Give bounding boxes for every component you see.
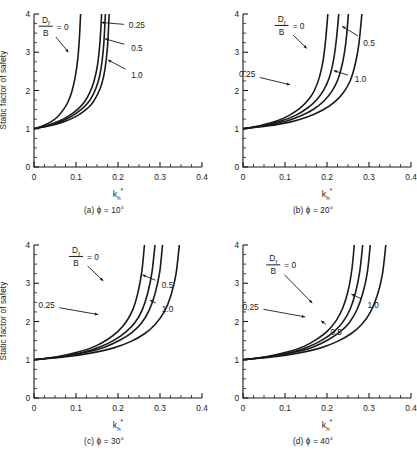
svg-text:0.5: 0.5 [330,327,342,337]
svg-text:0.3: 0.3 [154,403,166,413]
panel-caption-b: (b) ϕ = 20° [209,206,417,215]
svg-text:= 0: = 0 [293,21,305,31]
panel-c: Static factor of safety 0123400.10.20.30… [0,231,208,461]
svg-text:1.0: 1.0 [162,304,174,314]
svg-text:0.25: 0.25 [242,302,259,312]
plot-area-a: 0123400.10.20.30.4kh*DfB= 00.250.51.0 [0,0,208,205]
svg-text:1: 1 [25,124,30,134]
svg-text:0.25: 0.25 [129,20,146,30]
svg-text:Df: Df [42,15,50,27]
svg-text:0: 0 [241,172,246,182]
svg-text:0: 0 [234,393,239,403]
svg-text:0.2: 0.2 [321,403,333,413]
panel-b: 0123400.10.20.30.4kh*DfB= 00.250.51.0 (b… [209,0,417,230]
svg-text:0: 0 [32,172,37,182]
svg-text:0.2: 0.2 [112,172,124,182]
svg-text:1: 1 [25,355,30,365]
svg-text:3: 3 [25,278,30,288]
svg-text:0.5: 0.5 [162,280,174,290]
panel-caption-a: (a) ϕ = 10° [0,206,208,215]
svg-text:= 0: = 0 [87,252,99,262]
svg-text:0.1: 0.1 [70,172,82,182]
svg-text:2: 2 [25,317,30,327]
svg-text:4: 4 [25,240,30,250]
svg-text:0.1: 0.1 [279,172,291,182]
svg-text:0.3: 0.3 [363,403,375,413]
svg-text:3: 3 [25,47,30,57]
svg-text:0: 0 [25,162,30,172]
panel-d: 0123400.10.20.30.4kh*DfB= 00.250.51.0 (d… [209,231,417,461]
svg-text:= 0: = 0 [284,260,296,270]
svg-text:4: 4 [234,9,239,19]
svg-text:Df: Df [72,245,80,257]
svg-text:B: B [279,27,285,37]
panel-caption-d: (d) ϕ = 40° [209,437,417,446]
svg-text:0.1: 0.1 [279,403,291,413]
svg-text:0.2: 0.2 [112,403,124,413]
svg-text:0: 0 [32,403,37,413]
svg-text:0: 0 [241,403,246,413]
svg-text:0.4: 0.4 [405,172,417,182]
svg-text:kh*: kh* [113,187,124,201]
svg-text:0.3: 0.3 [154,172,166,182]
panel-a: Static factor of safety 0123400.10.20.30… [0,0,208,230]
svg-text:0: 0 [234,162,239,172]
svg-text:B: B [43,28,49,38]
svg-text:1: 1 [234,124,239,134]
svg-text:0.4: 0.4 [405,403,417,413]
plot-area-b: 0123400.10.20.30.4kh*DfB= 00.250.51.0 [209,0,417,205]
svg-text:2: 2 [25,86,30,96]
plot-area-d: 0123400.10.20.30.4kh*DfB= 00.250.51.0 [209,231,417,436]
svg-text:0.5: 0.5 [131,43,143,53]
figure-root: Static factor of safety 0123400.10.20.30… [0,0,417,461]
svg-text:0: 0 [25,393,30,403]
svg-text:2: 2 [234,317,239,327]
svg-text:1.0: 1.0 [131,70,143,80]
svg-text:Df: Df [269,253,277,265]
svg-text:3: 3 [234,278,239,288]
svg-text:0.4: 0.4 [196,172,208,182]
svg-text:1.0: 1.0 [355,74,367,84]
svg-text:3: 3 [234,47,239,57]
svg-text:0.5: 0.5 [363,38,375,48]
panel-caption-c: (c) ϕ = 30° [0,437,208,446]
svg-text:B: B [270,266,276,276]
plot-area-c: 0123400.10.20.30.4kh*DfB= 00.250.51.0 [0,231,208,436]
svg-text:kh*: kh* [322,418,333,432]
svg-text:= 0: = 0 [57,22,69,32]
svg-text:4: 4 [234,240,239,250]
svg-text:0.2: 0.2 [321,172,333,182]
svg-text:kh*: kh* [113,418,124,432]
svg-text:kh*: kh* [322,187,333,201]
svg-text:0.1: 0.1 [70,403,82,413]
svg-text:0.25: 0.25 [39,300,56,310]
svg-text:1.0: 1.0 [367,300,379,310]
svg-text:Df: Df [278,14,286,26]
svg-text:2: 2 [234,86,239,96]
svg-text:0.4: 0.4 [196,403,208,413]
svg-text:0.3: 0.3 [363,172,375,182]
svg-text:B: B [73,258,79,268]
svg-text:0.25: 0.25 [239,69,256,79]
svg-text:4: 4 [25,9,30,19]
svg-text:1: 1 [234,355,239,365]
